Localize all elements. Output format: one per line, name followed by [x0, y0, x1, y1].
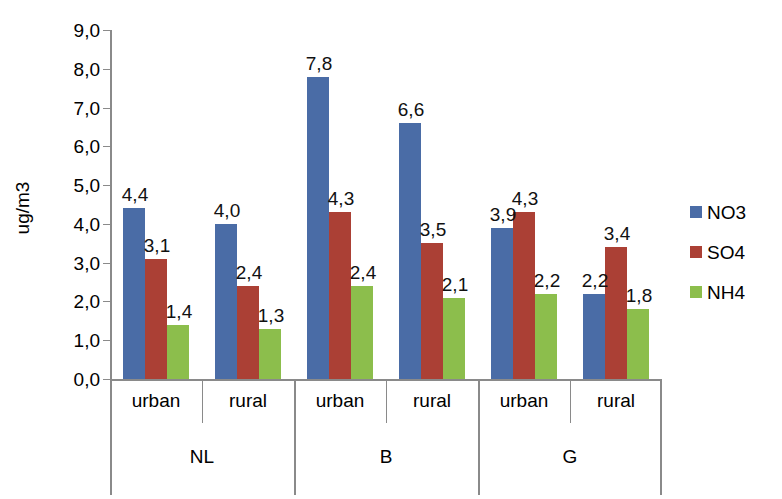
x-category-label-rural: rural: [597, 390, 635, 412]
category-frame-right: [660, 379, 662, 495]
legend-swatch-icon: [690, 246, 702, 258]
y-tick-label: 1,0: [52, 331, 100, 350]
x-group-label-NL: NL: [190, 446, 214, 468]
bar-nh4[interactable]: [351, 286, 373, 379]
bar-no3[interactable]: [215, 224, 237, 379]
y-tick-mark: [103, 263, 110, 264]
y-tick-mark: [103, 146, 110, 147]
category-separator-minor: [202, 381, 203, 423]
group-separator: [478, 381, 480, 495]
bar-value-label: 3,5: [420, 220, 446, 239]
bar-value-label: 7,8: [306, 54, 332, 73]
bar-value-label: 4,4: [122, 185, 148, 204]
legend-item-nh4[interactable]: NH4: [690, 272, 746, 312]
bar-value-label: 2,4: [350, 263, 376, 282]
y-tick-mark: [103, 301, 110, 302]
y-tick-label: 5,0: [52, 176, 100, 195]
x-category-label-rural: rural: [229, 390, 267, 412]
legend: NO3SO4NH4: [690, 192, 746, 312]
x-group-label-B: B: [380, 446, 393, 468]
group-separator: [294, 381, 296, 495]
y-tick-mark: [103, 69, 110, 70]
x-group-label-G: G: [563, 446, 578, 468]
bar-so4[interactable]: [145, 259, 167, 379]
bar-value-label: 4,0: [214, 201, 240, 220]
bar-no3[interactable]: [399, 123, 421, 379]
y-tick-mark: [103, 224, 110, 225]
bar-nh4[interactable]: [443, 298, 465, 379]
y-tick-label: 0,0: [52, 370, 100, 389]
legend-item-so4[interactable]: SO4: [690, 232, 746, 272]
y-tick-label: 6,0: [52, 137, 100, 156]
legend-swatch-icon: [690, 206, 702, 218]
category-frame-left: [110, 379, 112, 495]
category-separator-minor: [570, 381, 571, 423]
bar-chart: ug/m3 9,08,07,06,05,04,03,02,01,00,0 4,4…: [0, 0, 782, 499]
bar-value-label: 6,6: [398, 100, 424, 119]
bar-value-label: 2,2: [534, 271, 560, 290]
y-tick-label: 9,0: [52, 21, 100, 40]
bar-nh4[interactable]: [535, 294, 557, 379]
x-category-label-urban: urban: [316, 390, 365, 412]
y-tick-label: 7,0: [52, 98, 100, 117]
bar-value-label: 1,3: [258, 306, 284, 325]
bar-nh4[interactable]: [167, 325, 189, 379]
bar-no3[interactable]: [307, 77, 329, 379]
bar-so4[interactable]: [513, 212, 535, 379]
x-category-label-urban: urban: [500, 390, 549, 412]
plot-area: [110, 30, 662, 379]
bar-so4[interactable]: [421, 243, 443, 379]
bar-so4[interactable]: [237, 286, 259, 379]
bar-no3[interactable]: [491, 228, 513, 379]
bar-value-label: 1,4: [166, 302, 192, 321]
x-category-label-rural: rural: [413, 390, 451, 412]
legend-label: NH4: [707, 283, 745, 302]
legend-item-no3[interactable]: NO3: [690, 192, 746, 232]
x-category-label-urban: urban: [132, 390, 181, 412]
bar-nh4[interactable]: [259, 329, 281, 379]
y-tick-mark: [103, 185, 110, 186]
y-tick-label: 2,0: [52, 292, 100, 311]
bar-value-label: 2,4: [236, 263, 262, 282]
y-tick-mark: [103, 30, 110, 31]
y-axis-title: ug/m3: [12, 163, 34, 253]
bar-value-label: 4,3: [328, 189, 354, 208]
bar-value-label: 3,1: [144, 236, 170, 255]
bar-nh4[interactable]: [627, 309, 649, 379]
y-tick-label: 3,0: [52, 253, 100, 272]
legend-label: SO4: [707, 243, 745, 262]
y-tick-mark: [103, 379, 110, 380]
y-tick-mark: [103, 340, 110, 341]
legend-swatch-icon: [690, 286, 702, 298]
bar-value-label: 1,8: [626, 286, 652, 305]
legend-label: NO3: [707, 203, 746, 222]
bar-no3[interactable]: [123, 208, 145, 379]
y-tick-mark: [103, 108, 110, 109]
bar-value-label: 2,1: [442, 275, 468, 294]
bar-no3[interactable]: [583, 294, 605, 379]
bar-value-label: 2,2: [582, 271, 608, 290]
y-tick-label: 8,0: [52, 59, 100, 78]
bar-so4[interactable]: [329, 212, 351, 379]
y-tick-label: 4,0: [52, 214, 100, 233]
bar-so4[interactable]: [605, 247, 627, 379]
bar-value-label: 3,4: [604, 224, 630, 243]
category-separator-minor: [386, 381, 387, 423]
bar-value-label: 4,3: [512, 189, 538, 208]
